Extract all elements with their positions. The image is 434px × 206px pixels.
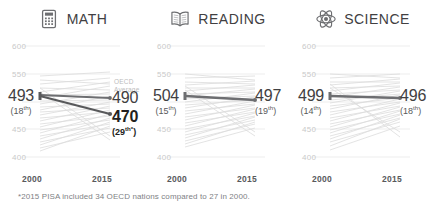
math-year-2015: 2015 (92, 174, 112, 184)
panel-reading-header: READING (145, 6, 290, 32)
reading-year-2015: 2015 (237, 174, 257, 184)
calculator-icon (38, 8, 60, 30)
math-left-rank: (18th) (2, 105, 40, 116)
reading-left-value-block: 504 (15th) (147, 88, 185, 116)
math-year-2000: 2000 (22, 174, 42, 184)
science-left-value: 499 (298, 87, 324, 104)
panel-science-title: SCIENCE (344, 11, 410, 27)
math-oecd-value-block: 490 (112, 90, 144, 106)
axis-tick-600: 600 (12, 42, 26, 51)
panel-science-header: SCIENCE (290, 6, 434, 32)
axis-tick-400: 400 (157, 153, 171, 162)
science-year-row: 2000 2015 (290, 174, 434, 186)
science-year-2015: 2015 (382, 174, 402, 184)
math-left-value: 493 (8, 87, 34, 104)
panel-math-header: MATH (0, 6, 145, 32)
axis-tick-550: 550 (157, 70, 171, 79)
atom-icon (315, 8, 337, 30)
reading-right-value-block: 497 (19th) (255, 88, 291, 116)
axis-tick-400: 400 (302, 153, 316, 162)
math-oecd-average-line (40, 95, 110, 98)
reading-left-value: 504 (153, 87, 179, 104)
axis-tick-550: 550 (12, 70, 26, 79)
science-us-line (330, 96, 400, 98)
pisa-slope-chart: MATH (0, 0, 434, 206)
science-left-rank: (14th) (292, 105, 330, 116)
reading-right-rank: (19th) (255, 105, 291, 116)
reading-right-value: 497 (255, 87, 281, 104)
panel-math: MATH (0, 0, 145, 190)
science-left-value-block: 499 (14th) (292, 88, 330, 116)
math-year-row: 2000 2015 (0, 174, 145, 186)
reading-background-slopes (185, 74, 255, 147)
open-book-icon (169, 8, 191, 30)
panel-reading: READING (145, 0, 290, 190)
math-us-rank: (29th*) (112, 126, 146, 137)
axis-tick-400: 400 (12, 153, 26, 162)
axis-tick-450: 450 (12, 125, 26, 134)
math-us-value-block: 470 (29th*) (112, 109, 146, 137)
axis-tick-450: 450 (157, 125, 171, 134)
axis-tick-600: 600 (157, 42, 171, 51)
axis-tick-550: 550 (302, 70, 316, 79)
reading-year-2000: 2000 (167, 174, 187, 184)
math-oecd-value: 490 (112, 89, 138, 106)
science-right-value-block: 496 (18th) (400, 88, 434, 116)
panel-math-title: MATH (67, 11, 108, 27)
math-left-value-block: 493 (18th) (2, 88, 40, 116)
science-background-slopes (330, 74, 400, 150)
panel-reading-title: READING (198, 11, 265, 27)
chart-footnote: *2015 PISA included 34 OECD nations comp… (18, 192, 250, 201)
reading-left-rank: (15th) (147, 105, 185, 116)
math-us-value: 470 (112, 108, 138, 125)
reading-year-row: 2000 2015 (145, 174, 290, 186)
axis-tick-600: 600 (302, 42, 316, 51)
oecd-note-line1: OECD (114, 78, 134, 85)
axis-tick-450: 450 (302, 125, 316, 134)
science-right-rank: (18th) (400, 105, 434, 116)
panel-science: SCIENCE (290, 0, 434, 190)
science-right-value: 496 (400, 87, 426, 104)
science-year-2000: 2000 (312, 174, 332, 184)
